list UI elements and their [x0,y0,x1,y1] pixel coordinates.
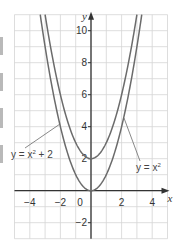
x-tick-label: 2 [119,197,125,208]
y-tick-label: 10 [76,25,88,36]
x-axis-label: x [167,192,173,204]
y-axis-label: y [81,10,87,22]
x-tick-label: 4 [149,197,155,208]
y-tick-label: −2 [76,217,88,228]
y-axis-arrow-icon [88,12,94,20]
label-x-squared: y = x2 [136,162,161,173]
x-tick-label: 0 [77,197,83,208]
pointer-line-right [124,118,140,161]
parabola-graph: xy −4−2024−2246810 y = x2 + 2y = x2 [0,0,176,251]
y-tick-label: 6 [81,89,87,100]
pointer-line-left [25,124,60,148]
y-tick-label: 8 [81,57,87,68]
x-tick-label: −2 [55,197,67,208]
y-tick-label: 4 [81,121,87,132]
x-tick-label: −4 [24,197,36,208]
label-x-squared-plus-2: y = x2 + 2 [11,149,53,160]
